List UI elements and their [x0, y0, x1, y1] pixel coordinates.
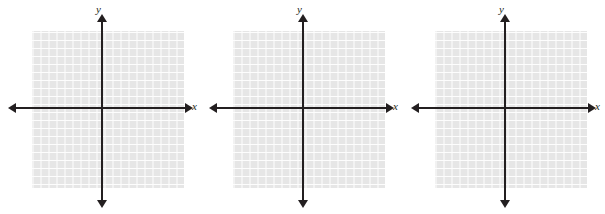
x-axis-label: x	[393, 101, 398, 112]
y-axis-up-arrow-icon	[97, 14, 107, 22]
x-axis-label: x	[192, 101, 197, 112]
y-axis-line	[302, 22, 304, 201]
y-axis-line	[504, 22, 506, 201]
grid-area	[233, 31, 385, 188]
coordinate-panel-1: x y	[0, 0, 201, 214]
y-axis-down-arrow-icon	[97, 200, 107, 208]
y-axis-down-arrow-icon	[500, 200, 510, 208]
x-axis-line	[417, 107, 589, 109]
x-axis-line	[14, 107, 186, 109]
y-axis-up-arrow-icon	[500, 14, 510, 22]
x-axis-label: x	[595, 101, 600, 112]
y-axis-up-arrow-icon	[298, 14, 308, 22]
x-axis-left-arrow-icon	[209, 103, 217, 113]
coordinate-panel-2: x y	[201, 0, 402, 214]
y-axis-down-arrow-icon	[298, 200, 308, 208]
grid-area	[435, 31, 587, 188]
x-axis-line	[215, 107, 387, 109]
x-axis-left-arrow-icon	[8, 103, 16, 113]
y-axis-label: y	[297, 4, 302, 15]
coordinate-grid-figure: x y x y x y	[0, 0, 605, 214]
coordinate-panel-3: x y	[403, 0, 604, 214]
grid-area	[32, 31, 184, 188]
y-axis-label: y	[96, 4, 101, 15]
x-axis-left-arrow-icon	[411, 103, 419, 113]
y-axis-label: y	[499, 4, 504, 15]
y-axis-line	[101, 22, 103, 201]
